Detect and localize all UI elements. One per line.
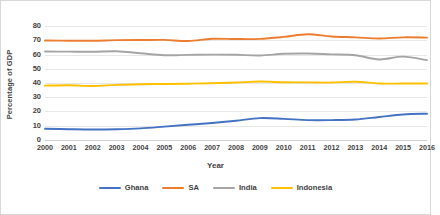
y-tick-label: 30 — [19, 93, 41, 101]
series-line-india — [45, 51, 427, 60]
y-tick-label: 10 — [19, 122, 41, 130]
legend-swatch-icon — [213, 187, 235, 189]
legend-item-indonesia[interactable]: Indonesia — [271, 184, 332, 192]
y-tick-label: 50 — [19, 65, 41, 73]
legend-item-ghana[interactable]: Ghana — [99, 184, 149, 192]
y-tick-label: 70 — [19, 37, 41, 45]
y-tick-label: 60 — [19, 51, 41, 59]
legend-label: India — [239, 184, 257, 192]
legend-label: Ghana — [125, 184, 149, 192]
gridline — [45, 140, 427, 141]
series-line-indonesia — [45, 82, 427, 86]
x-tick-label: 2016 — [412, 144, 440, 151]
series-line-sa — [45, 35, 427, 42]
y-tick-label: 40 — [19, 79, 41, 87]
y-axis-tick-labels: 80706050403020100 — [19, 22, 41, 140]
series-lines — [45, 26, 427, 139]
legend-item-india[interactable]: India — [213, 184, 257, 192]
legend-label: SA — [188, 184, 199, 192]
legend-item-sa[interactable]: SA — [162, 184, 199, 192]
x-axis-tick-labels: 2000200120022003200420052006200720082009… — [45, 144, 427, 156]
series-line-ghana — [45, 114, 427, 130]
chart-legend: GhanaSAIndiaIndonesia — [1, 184, 430, 192]
legend-swatch-icon — [162, 187, 184, 189]
y-axis-title: Percentage of GDP — [3, 29, 17, 139]
y-axis-title-label: Percentage of GDP — [6, 49, 15, 119]
legend-label: Indonesia — [297, 184, 332, 192]
y-tick-label: 20 — [19, 108, 41, 116]
plot-area — [45, 26, 427, 139]
legend-swatch-icon — [99, 187, 121, 189]
x-axis-title: Year — [1, 161, 430, 170]
legend-swatch-icon — [271, 187, 293, 189]
y-tick-label: 80 — [19, 23, 41, 31]
